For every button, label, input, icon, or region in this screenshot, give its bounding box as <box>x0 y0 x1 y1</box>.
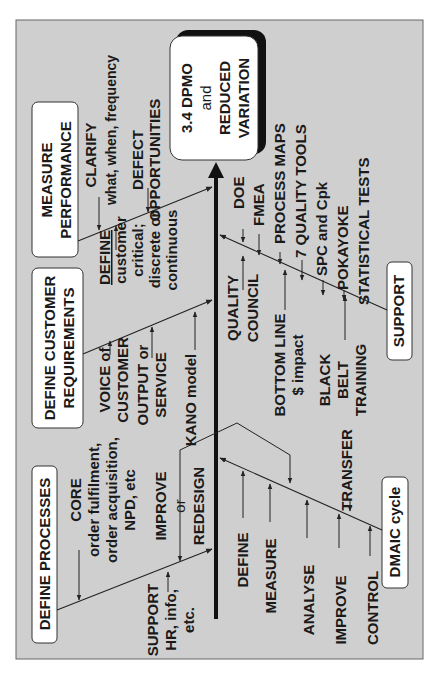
voice-label: VOICE of CUSTOMER <box>96 337 131 423</box>
svg-text:order acquisition,: order acquisition, <box>103 437 120 563</box>
svg-text:SERVICE: SERVICE <box>152 352 169 418</box>
define-processes-title: DEFINE PROCESSES <box>36 478 53 631</box>
svg-text:TRANSFER: TRANSFER <box>338 429 355 511</box>
svg-text:3.4 DPMO: 3.4 DPMO <box>178 63 195 133</box>
svg-text:HR, info,: HR, info, <box>162 589 179 651</box>
svg-text:OUTPUT or: OUTPUT or <box>134 344 151 425</box>
svg-text:SUPPORT: SUPPORT <box>390 275 407 348</box>
svg-text:and: and <box>197 85 214 110</box>
svg-text:OPPORTUNITIES: OPPORTUNITIES <box>146 99 163 222</box>
core-label: CORE <box>67 478 84 521</box>
define-ctq-label: DEFINE <box>96 230 113 285</box>
svg-text:REDUCED: REDUCED <box>216 61 233 135</box>
svg-text:IMPROVE: IMPROVE <box>332 575 349 644</box>
svg-text:CLARIFY: CLARIFY <box>82 123 99 188</box>
svg-text:QUALITY: QUALITY <box>224 275 241 341</box>
svg-text:critical;: critical; <box>129 223 146 276</box>
svg-text:IMPROVE: IMPROVE <box>152 471 169 540</box>
svg-text:REQUIREMENTS: REQUIREMENTS <box>60 288 77 409</box>
svg-text:DEFINE: DEFINE <box>234 532 251 587</box>
svg-text:order fulfilment,: order fulfilment, <box>85 443 102 557</box>
svg-text:7 QUALITY TOOLS: 7 QUALITY TOOLS <box>292 124 309 258</box>
svg-text:BOTTOM LINE: BOTTOM LINE <box>271 313 288 416</box>
svg-text:REDESIGN: REDESIGN <box>190 467 207 545</box>
svg-text:ANALYSE: ANALYSE <box>300 565 317 635</box>
svg-text:BELT: BELT <box>334 361 351 399</box>
svg-text:CORE: CORE <box>67 478 84 521</box>
svg-text:customer: customer <box>112 216 129 284</box>
svg-text:VARIATION: VARIATION <box>235 58 252 138</box>
clarify-label: CLARIFY <box>82 123 99 188</box>
svg-text:PERFORMANCE: PERFORMANCE <box>57 121 74 239</box>
svg-text:POKAYOKE: POKAYOKE <box>334 206 351 290</box>
svg-text:COUNCIL: COUNCIL <box>244 274 261 342</box>
svg-text:DOE: DOE <box>230 176 247 209</box>
svg-text:CUSTOMER: CUSTOMER <box>114 337 131 423</box>
support-title: SUPPORT <box>390 275 407 348</box>
kano-label: KANO model <box>182 354 199 447</box>
svg-text:DMAIC cycle: DMAIC cycle <box>386 487 403 578</box>
svg-text:VOICE of: VOICE of <box>96 347 113 413</box>
svg-text:TRAINING: TRAINING <box>352 344 369 417</box>
svg-text:$ impact: $ impact <box>289 335 306 396</box>
svg-text:DEFINE CUSTOMER: DEFINE CUSTOMER <box>41 275 58 420</box>
svg-text:STATISTICAL TESTS: STATISTICAL TESTS <box>355 157 372 305</box>
svg-text:DEFINE: DEFINE <box>96 230 113 285</box>
fishbone-diagram: 3.4 DPMO and REDUCED VARIATION MEASURE P… <box>0 0 441 680</box>
svg-text:continuous: continuous <box>163 210 180 291</box>
svg-text:discrete or: discrete or <box>146 211 163 288</box>
svg-text:etc.: etc. <box>180 607 197 633</box>
svg-text:MEASURE: MEASURE <box>262 538 279 613</box>
svg-text:DEFECT: DEFECT <box>129 130 146 190</box>
svg-text:PROCESS MAPS: PROCESS MAPS <box>271 123 288 244</box>
svg-text:BLACK: BLACK <box>316 354 333 407</box>
svg-text:MEASURE: MEASURE <box>38 142 55 217</box>
dmaic-title: DMAIC cycle <box>386 487 403 578</box>
define-ctq-detail: customer critical; discrete or continuou… <box>112 210 180 291</box>
svg-text:KANO model: KANO model <box>182 354 199 447</box>
svg-text:SUPPORT: SUPPORT <box>144 584 161 657</box>
clarify-detail: what, when, frequency <box>103 55 119 206</box>
svg-text:FMEA: FMEA <box>250 183 267 226</box>
svg-text:what, when, frequency: what, when, frequency <box>103 55 119 206</box>
svg-text:CONTROL: CONTROL <box>364 571 381 645</box>
svg-text:SPC and Cpk: SPC and Cpk <box>313 181 330 276</box>
svg-text:DEFINE PROCESSES: DEFINE PROCESSES <box>36 478 53 631</box>
svg-text:NPD, etc: NPD, etc <box>121 469 138 531</box>
